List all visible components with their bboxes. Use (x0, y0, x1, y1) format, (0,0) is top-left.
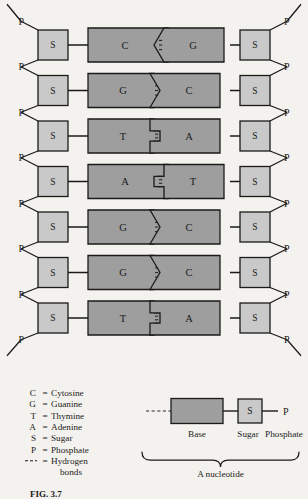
legend-word: Sugar (51, 433, 72, 443)
nucleotide-sugar-label: Sugar (237, 429, 258, 439)
base-right-letter: C (185, 222, 192, 233)
legend-symbol: C (30, 388, 36, 398)
nucleotide-caption: A nucleotide (197, 469, 244, 479)
nucleotide-brace (142, 452, 299, 467)
base-pair-row: SSTA (38, 119, 270, 153)
base-right-letter: C (185, 85, 192, 96)
base-right-letter: G (189, 40, 197, 51)
legend-symbol: S (31, 433, 36, 443)
sugar-label-right: S (252, 268, 257, 278)
backbone-link-open (287, 340, 301, 356)
legend-row: C=Cytosine (30, 388, 84, 398)
legend-row: S=Sugar (31, 433, 73, 443)
legend-equals: = (42, 388, 47, 398)
base-right-letter: A (185, 131, 193, 142)
sugar-label-left: S (50, 268, 55, 278)
legend-word: Thymine (51, 411, 84, 421)
base-pair-row: SSAT (38, 165, 270, 199)
sugar-label-right: S (252, 86, 257, 96)
legend-row: T=Thymine (30, 411, 84, 421)
dna-structure-figure: SSCGSSGCSSTASSATSSGCSSGCSSTAPPPPPPPPPPPP… (0, 0, 308, 499)
sugar-label-left: S (50, 131, 55, 141)
legend-symbol: T (30, 411, 36, 421)
legend-word: Phosphate (51, 445, 89, 455)
figure-number-caption: FIG. 3.7 (30, 489, 62, 499)
legend-equals: = (42, 445, 47, 455)
sugar-label-right: S (252, 131, 257, 141)
base-right-letter: T (190, 176, 197, 187)
legend-equals: = (42, 433, 47, 443)
nucleotide-base-box (171, 399, 223, 424)
sugar-label-left: S (50, 222, 55, 232)
legend-word: Adenine (51, 422, 82, 432)
legend-row: =Hydrogen (25, 456, 88, 466)
legend-equals: = (42, 411, 47, 421)
base-left-letter: G (119, 85, 127, 96)
legend-symbol: A (29, 422, 36, 432)
nucleotide-base-label: Base (188, 429, 206, 439)
sugar-label-right: S (252, 313, 257, 323)
sugar-label-right: S (252, 222, 257, 232)
sugar-label-right: S (252, 40, 257, 50)
legend-word: Guanine (51, 399, 82, 409)
legend-word: Cytosine (51, 388, 84, 398)
base-left-letter: T (120, 131, 127, 142)
base-pair-row: SSGC (38, 256, 270, 290)
base-pair-row: SSGC (38, 74, 270, 108)
backbone-link-open (7, 340, 21, 356)
base-pair-row: SSTA (38, 301, 270, 335)
nucleotide-phosphate-label: Phosphate (265, 429, 303, 439)
legend-symbol: P (31, 445, 36, 455)
legend-row: G=Guanine (29, 399, 82, 409)
legend-equals: = (42, 399, 47, 409)
sugar-label-left: S (50, 313, 55, 323)
base-right-letter: A (185, 313, 193, 324)
backbone-link-open (287, 4, 301, 21)
legend-equals: = (42, 422, 47, 432)
base-pair-row: SSGC (38, 210, 270, 244)
sugar-label-right: S (252, 177, 257, 187)
legend-row: A=Adenine (29, 422, 82, 432)
base-pair-row: SSCG (38, 28, 270, 62)
legend-row: P=Phosphate (31, 445, 89, 455)
sugar-label-left: S (50, 177, 55, 187)
sugar-label-left: S (50, 40, 55, 50)
base-left-letter: G (119, 267, 127, 278)
nucleotide-sugar-letter: S (247, 406, 252, 416)
base-right-letter: C (185, 267, 192, 278)
legend-equals: = (42, 456, 47, 466)
base-left-letter: T (120, 313, 127, 324)
nucleotide-phosphate-letter: P (283, 406, 289, 417)
dna-ladder: SSCGSSGCSSTASSATSSGCSSGCSSTAPPPPPPPPPPPP… (7, 4, 301, 356)
figure-canvas: SSCGSSGCSSTASSATSSGCSSGCSSTAPPPPPPPPPPPP… (0, 0, 308, 499)
base-left-letter: C (121, 40, 128, 51)
sugar-label-left: S (50, 86, 55, 96)
base-left-letter: A (121, 176, 129, 187)
backbone-link-open (7, 4, 21, 21)
legend-word: Hydrogen (51, 456, 88, 466)
legend-word-continuation: bonds (60, 467, 82, 477)
base-left-letter: G (119, 222, 127, 233)
legend-block: C=CytosineG=GuanineT=ThymineA=AdenineS=S… (25, 388, 89, 477)
legend-symbol: G (29, 399, 36, 409)
